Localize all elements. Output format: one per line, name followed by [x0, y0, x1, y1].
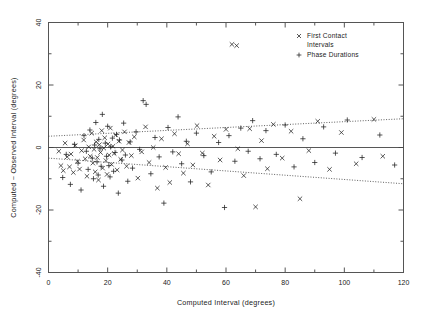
- marker-plus: [60, 175, 65, 180]
- marker-x: [155, 186, 159, 190]
- upper-envelope: [49, 119, 404, 137]
- marker-plus: [84, 149, 89, 154]
- legend-label-0: First Contact: [307, 32, 347, 39]
- marker-plus: [141, 98, 146, 103]
- marker-plus: [226, 133, 231, 138]
- marker-x: [103, 136, 107, 140]
- series-first-contact-intervals: [57, 42, 385, 209]
- marker-plus: [392, 162, 397, 167]
- marker-x: [132, 135, 136, 139]
- marker-plus: [170, 149, 175, 154]
- marker-plus: [161, 201, 166, 206]
- marker-plus: [111, 169, 116, 174]
- marker-plus: [188, 179, 193, 184]
- legend: First ContactIntervalsPhase Durations: [297, 32, 360, 58]
- marker-plus: [312, 160, 317, 165]
- marker-x: [316, 119, 320, 123]
- marker-x: [97, 142, 101, 146]
- y-tick-label: 0: [35, 145, 42, 149]
- marker-plus: [105, 124, 110, 129]
- marker-plus: [157, 154, 162, 159]
- marker-plus: [93, 120, 98, 125]
- marker-x: [79, 148, 83, 152]
- legend-label-0-line2: Intervals: [307, 41, 334, 48]
- marker-x: [191, 163, 195, 167]
- marker-plus: [121, 121, 126, 126]
- marker-x: [129, 153, 133, 157]
- marker-x: [247, 127, 251, 131]
- x-tick-label: 40: [163, 279, 171, 286]
- marker-x: [100, 128, 104, 132]
- marker-x: [124, 164, 128, 168]
- marker-x: [69, 152, 73, 156]
- marker-plus: [148, 171, 153, 176]
- marker-plus: [68, 182, 73, 187]
- y-axis-label: Computed − Observed Interval (degrees): [9, 77, 18, 217]
- series-phase-durations: [60, 98, 397, 210]
- marker-x: [87, 145, 91, 149]
- marker-x: [65, 155, 69, 159]
- marker-plus: [87, 127, 92, 132]
- marker-plus: [194, 131, 199, 136]
- marker-plus: [333, 151, 338, 156]
- marker-plus: [81, 133, 86, 138]
- marker-x: [63, 141, 67, 145]
- scatter-plot-figure: 020406080100120-40-2002040Computed Inter…: [0, 0, 421, 317]
- marker-x: [77, 167, 81, 171]
- plot-canvas: 020406080100120-40-2002040Computed Inter…: [0, 0, 421, 317]
- marker-x: [234, 43, 238, 47]
- marker-x: [206, 183, 210, 187]
- marker-x: [57, 149, 61, 153]
- marker-x: [181, 171, 185, 175]
- marker-plus: [238, 126, 243, 131]
- marker-x: [354, 162, 358, 166]
- marker-plus: [117, 137, 122, 142]
- marker-x: [105, 172, 109, 176]
- marker-plus: [86, 167, 91, 172]
- y-tick-label: -20: [35, 205, 42, 215]
- marker-plus: [321, 124, 326, 129]
- lower-envelope: [49, 158, 404, 184]
- marker-plus: [130, 166, 135, 171]
- marker-plus: [75, 161, 80, 166]
- marker-x: [83, 157, 87, 161]
- y-tick-label: 40: [35, 19, 42, 27]
- marker-plus: [257, 156, 262, 161]
- marker-plus: [144, 102, 149, 107]
- marker-plus: [246, 149, 251, 154]
- marker-x: [253, 205, 257, 209]
- marker-plus: [263, 128, 268, 133]
- marker-x: [106, 142, 110, 146]
- marker-x: [172, 132, 176, 136]
- marker-x: [280, 156, 284, 160]
- x-tick-label: 120: [398, 279, 410, 286]
- marker-x: [98, 150, 102, 154]
- marker-x: [307, 148, 311, 152]
- marker-plus: [91, 176, 96, 181]
- marker-x: [102, 146, 106, 150]
- marker-plus: [116, 191, 121, 196]
- marker-plus: [123, 152, 128, 157]
- marker-x: [259, 138, 263, 142]
- y-tick-label: 20: [35, 81, 42, 89]
- marker-x: [67, 165, 71, 169]
- marker-plus: [72, 142, 77, 147]
- marker-plus: [94, 159, 99, 164]
- marker-x: [372, 117, 376, 121]
- marker-plus: [128, 139, 133, 144]
- marker-plus: [283, 122, 288, 127]
- x-tick-label: 80: [281, 279, 289, 286]
- marker-plus: [274, 152, 279, 157]
- marker-plus: [101, 184, 106, 189]
- marker-plus: [125, 179, 130, 184]
- marker-plus: [78, 187, 83, 192]
- marker-x: [112, 151, 116, 155]
- x-axis-label: Computed Interval (degrees): [177, 298, 275, 307]
- marker-x: [159, 137, 163, 141]
- marker-x: [176, 152, 180, 156]
- marker-plus: [291, 164, 296, 169]
- marker-plus: [297, 53, 302, 58]
- marker-x: [59, 163, 63, 167]
- marker-x: [265, 167, 269, 171]
- marker-x: [327, 167, 331, 171]
